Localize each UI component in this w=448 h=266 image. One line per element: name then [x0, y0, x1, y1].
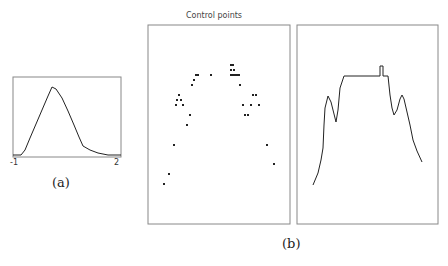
control-point	[175, 104, 177, 106]
control-point	[238, 74, 240, 76]
control-point	[230, 69, 232, 71]
control-point	[178, 94, 180, 96]
panel-b-right-curve	[313, 66, 422, 185]
control-point	[173, 144, 175, 146]
control-point	[255, 94, 257, 96]
figure-canvas	[0, 0, 448, 266]
caption-a: (a)	[52, 175, 70, 190]
panel-b-right-frame	[297, 25, 438, 224]
control-point	[230, 74, 232, 76]
control-point	[242, 104, 244, 106]
control-point	[210, 74, 212, 76]
control-point	[191, 84, 193, 86]
control-point	[247, 114, 249, 116]
control-point	[252, 94, 254, 96]
control-point	[163, 183, 165, 185]
x-tick-left: -1	[10, 158, 18, 167]
control-point	[176, 99, 178, 101]
control-point	[189, 114, 191, 116]
control-point	[258, 104, 260, 106]
control-point	[195, 74, 197, 76]
control-point	[180, 99, 182, 101]
panel-a-curve	[13, 87, 121, 155]
control-point	[266, 144, 268, 146]
control-point	[244, 114, 246, 116]
panel-b-left-title: Control points	[186, 11, 242, 20]
control-points	[163, 64, 275, 185]
x-tick-right: 2	[114, 158, 119, 167]
control-point	[232, 74, 234, 76]
control-point	[236, 74, 238, 76]
control-point	[232, 64, 234, 66]
panel-a-frame	[13, 77, 121, 157]
control-point	[234, 74, 236, 76]
panel-b-left-frame	[148, 25, 290, 224]
control-point	[182, 104, 184, 106]
control-point	[273, 163, 275, 165]
control-point	[168, 173, 170, 175]
control-point	[186, 124, 188, 126]
control-point	[239, 84, 241, 86]
control-point	[193, 79, 195, 81]
control-point	[233, 69, 235, 71]
caption-b: (b)	[282, 236, 300, 251]
control-point	[197, 74, 199, 76]
control-point	[250, 104, 252, 106]
